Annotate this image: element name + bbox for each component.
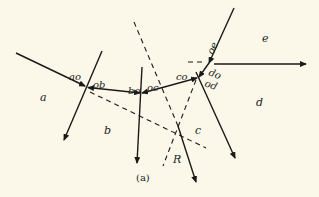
construction-lines [90,22,206,166]
member-1 [64,51,102,140]
resultant-label: R [172,153,181,166]
force-label-bo: bo [128,85,140,96]
region-label-b: b [104,124,111,137]
region-label-c: c [195,124,201,137]
region-label-e: e [262,32,269,45]
force-label-oc: oc [147,82,159,93]
region-label-d: d [256,96,263,109]
force-diagram: a b c d e ao ob bo oc co do od oe R (a) [0,0,319,197]
dashed-line-bc [134,22,178,126]
region-label-a: a [40,91,47,104]
force-label-ao: ao [69,71,81,82]
force-label-ob: ob [93,79,105,90]
force-label-co: co [176,71,188,82]
labels: a b c d e ao ob bo oc co do od oe R (a) [40,32,269,183]
figure-caption: (a) [136,172,150,183]
member-2 [137,67,142,163]
